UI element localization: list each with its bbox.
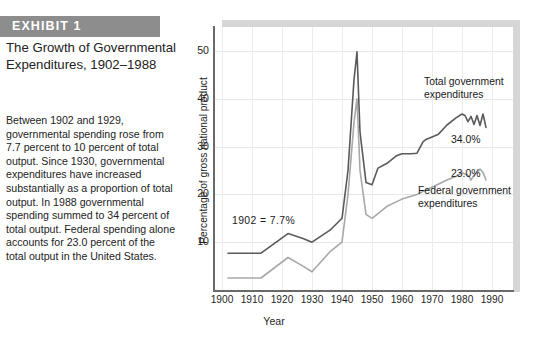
annotation-total-value: 34.0% bbox=[451, 134, 480, 147]
annotation-start-value: 1902 = 7.7% bbox=[232, 215, 295, 228]
annotation-total-label: Total government expenditures bbox=[424, 76, 534, 101]
exhibit-figure: EXHIBIT 1 The Growth of Governmental Exp… bbox=[0, 0, 548, 337]
annotation-federal-value: 23.0% bbox=[451, 168, 480, 181]
annotation-federal-label: Federal government expenditures bbox=[418, 185, 540, 210]
